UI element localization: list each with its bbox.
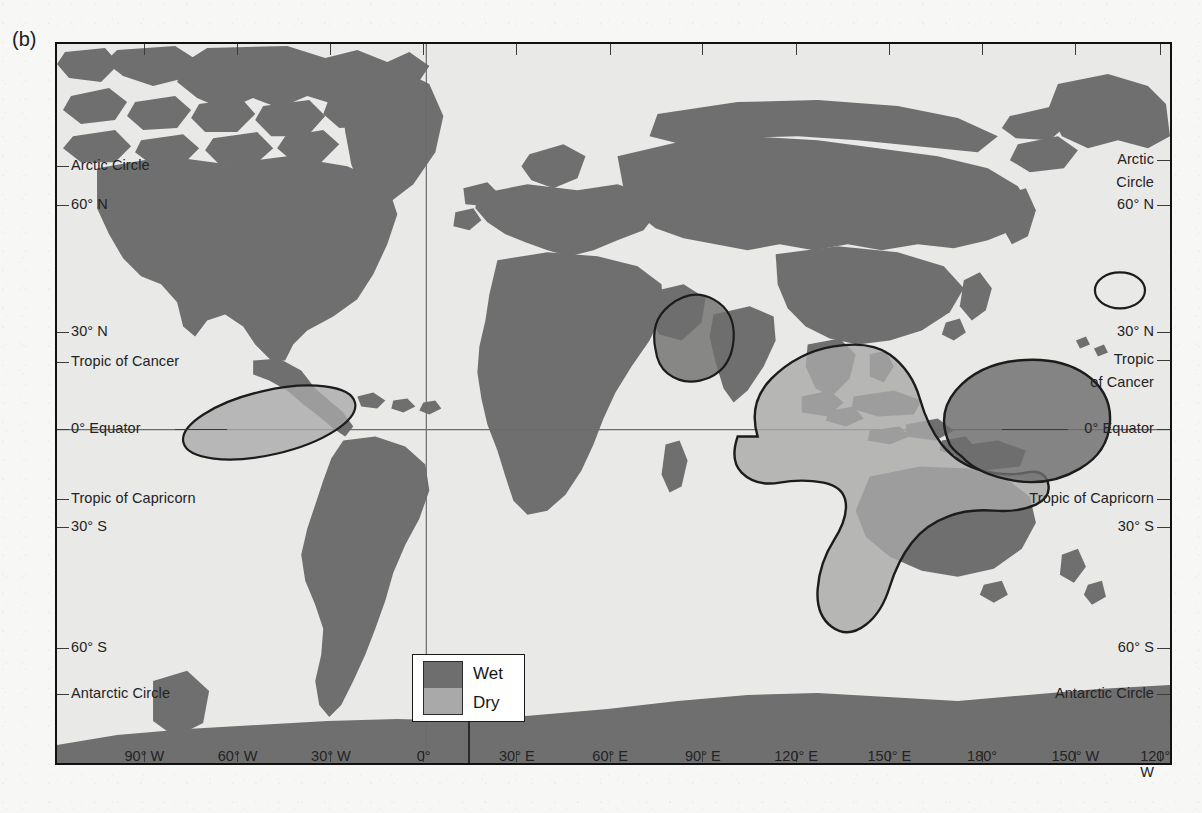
map-legend: Wet Dry bbox=[412, 654, 525, 722]
figure-page: the contrast of atmospheric circulation … bbox=[0, 0, 1202, 813]
legend-leader-line bbox=[468, 722, 470, 763]
longitude-label: 90° W bbox=[125, 748, 165, 764]
panel-label: (b) bbox=[12, 28, 36, 51]
longitude-label: 120° W bbox=[1140, 748, 1181, 780]
map-frame: Arctic Circle60° N30° NTropic of Cancer0… bbox=[55, 42, 1172, 765]
longitude-label: 90° E bbox=[685, 748, 721, 764]
legend-swatch-stack bbox=[423, 661, 463, 715]
longitude-label: 180° bbox=[967, 748, 997, 764]
wet-swatch bbox=[424, 662, 462, 688]
longitude-label: 60° E bbox=[592, 748, 628, 764]
longitude-label: 60° W bbox=[218, 748, 258, 764]
legend-label-stack: Wet Dry bbox=[473, 659, 503, 717]
legend-label-wet: Wet bbox=[473, 661, 503, 686]
longitude-label: 30° E bbox=[499, 748, 535, 764]
legend-label-dry: Dry bbox=[473, 690, 503, 715]
dry-swatch bbox=[424, 688, 462, 714]
longitude-label: 30° W bbox=[311, 748, 351, 764]
leader-lines-layer bbox=[57, 44, 1170, 763]
longitude-label: 150° E bbox=[868, 748, 912, 764]
longitude-label: 120° E bbox=[774, 748, 818, 764]
longitude-label: 0° bbox=[417, 748, 431, 764]
longitude-label: 150° W bbox=[1052, 748, 1100, 764]
map-canvas: Arctic Circle60° N30° NTropic of Cancer0… bbox=[57, 44, 1170, 763]
